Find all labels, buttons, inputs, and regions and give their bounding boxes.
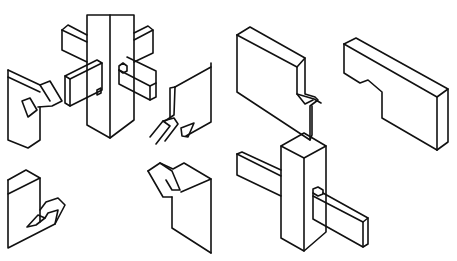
dovetail-piece-upper-left-edge	[8, 70, 62, 107]
dovetail-piece-upper-left-edge	[8, 77, 40, 92]
dovetail-piece-upper-left-edge	[40, 85, 50, 101]
dovetail-piece-upper-right-edge	[156, 121, 170, 144]
arm-upper-left-edge	[62, 30, 87, 42]
dovetail-piece-lower-right-edge	[148, 163, 211, 253]
assembled-arm-left-edge	[237, 152, 281, 170]
dovetail-piece-lower-right-edge	[172, 197, 211, 253]
tenon-front-right	[119, 57, 156, 100]
dovetail-piece-upper-right	[150, 63, 211, 144]
assembled-arm-left	[237, 152, 281, 196]
arm-upper-left-edge	[62, 30, 87, 62]
notched-board-right-edge	[344, 44, 448, 97]
tenon-front-right-edge	[119, 70, 156, 86]
notched-board-left-edge	[237, 35, 305, 67]
dovetail-piece-lower-right-edge	[181, 179, 211, 192]
notched-board-left-edge	[237, 27, 318, 140]
dovetail-piece-upper-left-edge	[8, 70, 40, 148]
dovetail-piece-lower-left-edge	[8, 170, 40, 222]
dovetail-piece-lower-left-edge	[8, 178, 40, 194]
notched-board-left-edge	[237, 35, 312, 140]
assembled-post	[281, 133, 326, 251]
tenon-front-left	[65, 60, 102, 106]
arm-upper-left	[62, 25, 87, 62]
joinery-line-drawing	[0, 0, 457, 261]
central-post-exploded	[87, 15, 134, 138]
dovetail-piece-upper-left-edge	[22, 98, 37, 117]
dovetail-piece-upper-left	[8, 70, 62, 148]
dovetail-piece-lower-left-edge	[45, 210, 58, 224]
dovetail-piece-lower-left-edge	[27, 215, 45, 227]
dovetail-piece-lower-right	[148, 163, 211, 253]
notched-board-right	[344, 38, 448, 150]
dovetail-piece-upper-right-edge	[175, 67, 211, 87]
arm-upper-right	[134, 26, 153, 62]
notched-board-left	[237, 27, 321, 140]
joinery-diagram	[0, 0, 457, 261]
tenon-front-left-edge	[65, 63, 102, 79]
assembled-post-edge	[281, 146, 326, 158]
assembled-through-tenon-edge	[313, 187, 323, 196]
assembled-arm-left-edge	[237, 154, 281, 176]
dovetail-piece-lower-left	[8, 170, 65, 248]
assembled-through-tenon	[313, 187, 368, 247]
notched-board-right-edge	[344, 44, 437, 150]
assembled-through-tenon-edge	[313, 196, 368, 222]
arm-upper-left-edge	[62, 25, 87, 35]
